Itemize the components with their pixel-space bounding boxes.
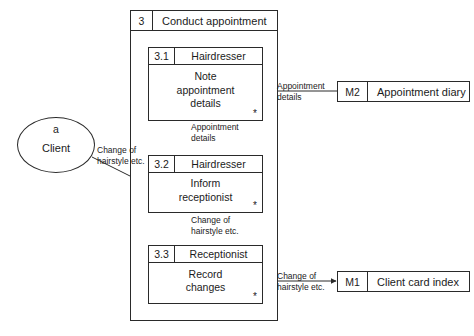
process-action-line-1: Note [177,70,235,84]
flow-label-line-2: hairstyle etc. [97,156,145,167]
data-store-id-m1: M1 [338,272,368,291]
flow-label-line-2: details [191,133,239,144]
data-store-name-m2: Appointment diary [368,82,469,101]
flow-label-line-1: Appointment [191,122,239,133]
process-body-3-1: Note appointment details [149,65,262,120]
process-box-3-3[interactable]: 3.3 Receptionist Record changes * [148,245,263,304]
flow-label-change-of-hairstyle-client: Change of hairstyle etc. [97,145,145,166]
flow-label-appointment-details-31-32: Appointment details [191,122,239,143]
process-body-3-3: Record changes [149,263,262,303]
external-entity-client[interactable]: a Client [17,117,95,173]
external-entity-name: Client [18,142,94,154]
process-actor-3-1: Hairdresser [175,48,262,64]
process-header-3-2: 3.2 Hairdresser [149,156,262,173]
process-header-3-3: 3.3 Receptionist [149,246,262,263]
flow-label-change-of-hairstyle-m1: Change of hairstyle etc. [277,271,325,292]
process-action-line-2: appointment [177,84,235,98]
process-id-3-3: 3.3 [149,246,175,262]
flow-label-line-1: Change of [277,271,325,282]
process-box-3-2[interactable]: 3.2 Hairdresser Inform receptionist * [148,155,263,213]
outer-process-header: 3 Conduct appointment [131,11,277,31]
data-store-m2[interactable]: M2 Appointment diary [337,81,470,102]
process-header-3-1: 3.1 Hairdresser [149,48,262,65]
flow-label-line-2: hairstyle etc. [277,282,325,293]
process-action-line-2: changes [186,281,226,295]
data-store-id-m2: M2 [338,82,368,101]
flow-label-line-1: Change of [191,215,239,226]
flow-label-appointment-details-m2: Appointment details [277,81,325,102]
process-action-line-2: receptionist [179,191,233,205]
process-actor-3-2: Hairdresser [175,156,262,172]
process-id-3-1: 3.1 [149,48,175,64]
dfd-canvas: 3 Conduct appointment 3.1 Hairdresser No… [0,0,474,336]
process-action-line-3: details [177,97,235,111]
data-store-m1[interactable]: M1 Client card index [337,271,470,292]
iteration-marker-3-1: * [253,109,257,119]
external-entity-id: a [18,123,94,135]
process-body-3-2: Inform receptionist [149,173,262,212]
process-box-3-1[interactable]: 3.1 Hairdresser Note appointment details… [148,47,263,121]
data-store-name-m1: Client card index [368,272,469,291]
process-actor-3-3: Receptionist [175,246,262,262]
flow-label-line-1: Change of [97,145,145,156]
iteration-marker-3-3: * [253,292,257,302]
outer-process-title: Conduct appointment [153,11,277,30]
flow-label-line-2: hairstyle etc. [191,226,239,237]
process-action-line-1: Record [186,268,226,282]
process-action-line-1: Inform [179,177,233,191]
process-id-3-2: 3.2 [149,156,175,172]
iteration-marker-3-2: * [253,201,257,211]
outer-process-id: 3 [131,11,153,30]
flow-label-line-1: Appointment [277,81,325,92]
flow-label-line-2: details [277,92,325,103]
flow-label-change-of-hairstyle-32-33: Change of hairstyle etc. [191,215,239,236]
